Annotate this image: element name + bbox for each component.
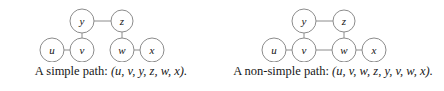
panel-non-simple-path: uvwxyz A non-simple path: (u, v, w, z, y… <box>222 0 444 91</box>
panel-simple-path: uvwxyz A simple path: (u, v, y, z, w, x)… <box>0 0 222 91</box>
graph-node-label-x: x <box>371 44 377 56</box>
graph-diagram-non-simple: uvwxyz <box>222 2 444 62</box>
graph-node-label-y: y <box>301 15 307 27</box>
graph-node-label-x: x <box>149 44 155 56</box>
graph-canvas: uvwxyz <box>222 2 444 62</box>
graph-node-label-y: y <box>79 15 85 27</box>
graph-node-label-w: w <box>340 44 348 56</box>
caption-vertex-sequence: (u, v, w, z, y, v, w, x). <box>332 64 433 78</box>
caption-simple-path: A simple path: (u, v, y, z, w, x). <box>0 62 222 80</box>
graph-node-label-z: z <box>119 15 125 27</box>
graph-canvas: uvwxyz <box>0 2 222 62</box>
graph-node-label-u: u <box>49 44 55 56</box>
graph-node-label-v: v <box>80 44 85 56</box>
graph-node-label-v: v <box>302 44 307 56</box>
graph-node-label-u: u <box>271 44 277 56</box>
graph-path-figure: uvwxyz A simple path: (u, v, y, z, w, x)… <box>0 0 444 91</box>
graph-node-label-w: w <box>118 44 126 56</box>
graph-node-label-z: z <box>341 15 347 27</box>
caption-prefix: A non-simple path: <box>233 64 332 78</box>
caption-vertex-sequence: (u, v, y, z, w, x). <box>111 64 187 78</box>
caption-non-simple-path: A non-simple path: (u, v, w, z, y, v, w,… <box>222 62 444 80</box>
graph-diagram-simple: uvwxyz <box>0 2 222 62</box>
caption-prefix: A simple path: <box>35 64 111 78</box>
